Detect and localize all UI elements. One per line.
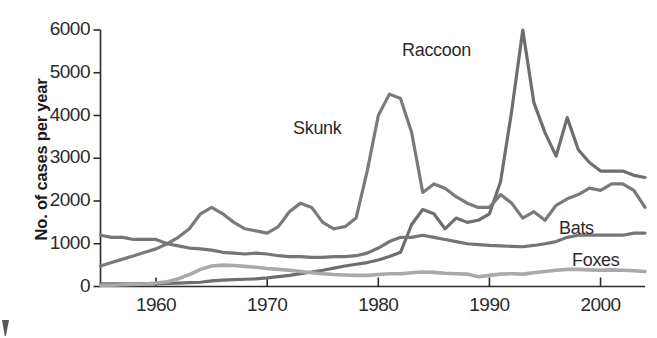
y-tick-label: 5000 (20, 61, 90, 83)
y-tick-label: 2000 (20, 189, 90, 211)
y-tick-label: 0 (20, 275, 90, 297)
series-label-skunk: Skunk (293, 118, 342, 139)
series-label-bats: Bats (559, 218, 594, 239)
rabies-cases-line-chart: No. of cases per year 010002000300040005… (0, 0, 657, 338)
x-tick-label: 1970 (227, 294, 307, 316)
x-tick-label: 1990 (449, 294, 529, 316)
y-tick-label: 4000 (20, 104, 90, 126)
x-tick-label: 2000 (561, 294, 641, 316)
x-tick-label: 1980 (338, 294, 418, 316)
y-tick-label: 3000 (20, 146, 90, 168)
x-tick-label: 1960 (116, 294, 196, 316)
series-lines (101, 30, 646, 285)
y-tick-label: 6000 (20, 18, 90, 40)
plot-area (0, 0, 657, 338)
series-label-raccoon: Raccoon (402, 40, 471, 61)
y-tick-label: 1000 (20, 232, 90, 254)
series-label-foxes: Foxes (572, 250, 620, 271)
